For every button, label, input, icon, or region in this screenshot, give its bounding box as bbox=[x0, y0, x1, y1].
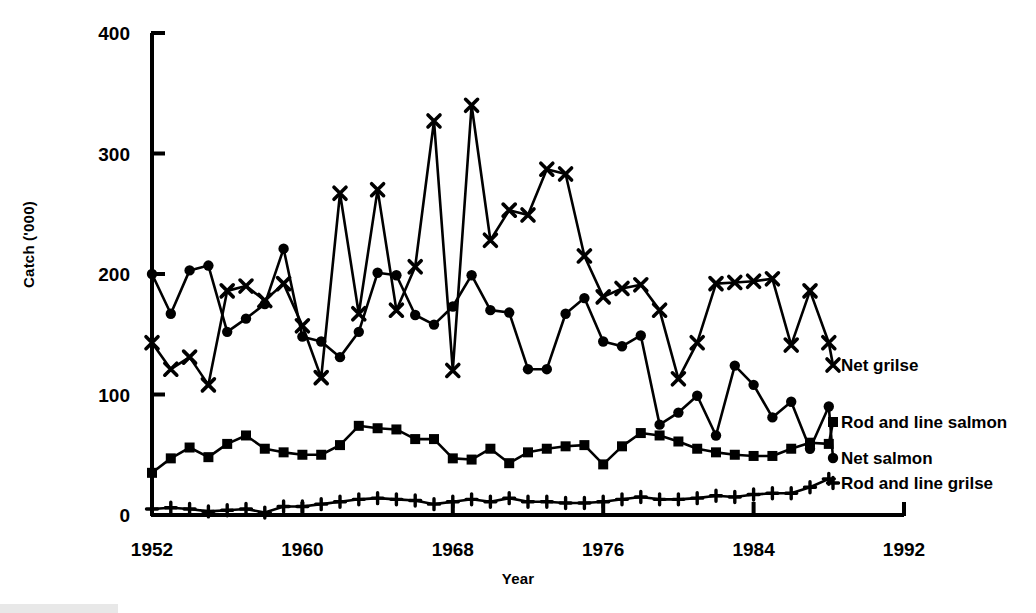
data-point-marker bbox=[673, 494, 684, 505]
data-point-marker bbox=[165, 363, 177, 375]
scan-artifact bbox=[0, 604, 118, 613]
data-point-marker bbox=[673, 436, 683, 446]
data-point-marker bbox=[523, 364, 533, 374]
series-rod-and-line-grilse bbox=[147, 473, 835, 518]
data-point-marker bbox=[429, 434, 439, 444]
data-point-marker bbox=[730, 450, 740, 460]
data-point-marker bbox=[636, 330, 646, 340]
data-point-marker bbox=[504, 493, 515, 504]
series-net-salmon bbox=[147, 243, 834, 453]
data-point-marker bbox=[429, 319, 439, 329]
data-point-marker bbox=[373, 423, 383, 433]
data-point-marker bbox=[391, 424, 401, 434]
data-point-marker bbox=[711, 447, 721, 457]
y-axis-tick-label: 300 bbox=[98, 144, 130, 165]
data-point-marker bbox=[561, 441, 571, 451]
data-point-marker bbox=[767, 451, 777, 461]
data-point-marker bbox=[241, 313, 251, 323]
data-point-marker bbox=[184, 351, 196, 363]
data-point-marker bbox=[673, 407, 683, 417]
data-point-marker bbox=[654, 419, 664, 429]
y-axis-title: Catch ('000) bbox=[20, 165, 37, 325]
legend-label-net_salmon: Net salmon bbox=[841, 449, 933, 468]
data-point-marker bbox=[467, 455, 477, 465]
data-point-marker bbox=[147, 503, 158, 514]
data-point-marker bbox=[184, 265, 194, 275]
y-axis-tick-label: 400 bbox=[98, 23, 130, 44]
series-net-grilse bbox=[146, 99, 835, 391]
data-point-marker bbox=[260, 299, 270, 309]
series-line bbox=[152, 249, 829, 449]
data-point-marker bbox=[805, 438, 815, 448]
legend-layer: Net grilseRod and line salmonNet salmonR… bbox=[827, 343, 1007, 493]
data-point-marker bbox=[448, 301, 458, 311]
data-point-marker bbox=[297, 331, 307, 341]
data-point-marker bbox=[185, 443, 195, 453]
data-point-marker bbox=[655, 430, 665, 440]
legend-label-net_grilse: Net grilse bbox=[841, 356, 918, 375]
data-point-marker bbox=[372, 493, 383, 504]
data-point-marker bbox=[748, 380, 758, 390]
y-axis-tick-label: 100 bbox=[98, 385, 130, 406]
data-point-marker bbox=[184, 503, 195, 514]
data-point-marker bbox=[579, 440, 589, 450]
data-point-marker bbox=[598, 459, 608, 469]
data-point-marker bbox=[222, 327, 232, 337]
data-point-marker bbox=[316, 336, 326, 346]
data-point-marker bbox=[222, 439, 232, 449]
data-point-marker bbox=[297, 450, 307, 460]
data-point-marker bbox=[692, 444, 702, 454]
data-point-marker bbox=[297, 501, 308, 512]
y-axis-tick-label: 0 bbox=[119, 505, 130, 526]
data-point-marker bbox=[748, 489, 759, 500]
data-point-marker bbox=[786, 397, 796, 407]
data-point-marker bbox=[598, 336, 608, 346]
data-point-marker bbox=[485, 444, 495, 454]
data-point-marker bbox=[597, 291, 609, 303]
data-point-marker bbox=[654, 494, 665, 505]
data-point-marker bbox=[278, 243, 288, 253]
data-point-marker bbox=[316, 450, 326, 460]
data-point-marker bbox=[767, 412, 777, 422]
data-point-marker bbox=[523, 447, 533, 457]
data-point-marker bbox=[335, 440, 345, 450]
data-point-marker bbox=[485, 305, 495, 315]
data-point-marker bbox=[166, 309, 176, 319]
data-point-marker bbox=[786, 444, 796, 454]
series-rod-and-line-salmon bbox=[147, 421, 834, 478]
x-axis-title: Year bbox=[458, 570, 578, 587]
data-point-marker bbox=[692, 493, 703, 504]
data-point-marker bbox=[579, 497, 590, 508]
data-point-marker bbox=[203, 452, 213, 462]
data-point-marker bbox=[560, 309, 570, 319]
data-point-marker bbox=[711, 430, 721, 440]
x-axis-tick-label: 1960 bbox=[281, 539, 323, 560]
data-point-marker bbox=[635, 491, 646, 502]
data-point-marker bbox=[448, 453, 458, 463]
data-point-marker bbox=[523, 496, 534, 507]
data-point-marker bbox=[165, 502, 176, 513]
data-point-marker bbox=[767, 488, 778, 499]
data-point-marker bbox=[504, 458, 514, 468]
data-point-marker bbox=[560, 497, 571, 508]
data-point-marker bbox=[241, 430, 251, 440]
chart-container: 0100200300400195219601968197619841992 Ne… bbox=[0, 0, 1036, 613]
data-point-marker bbox=[372, 268, 382, 278]
x-axis-tick-label: 1952 bbox=[131, 539, 173, 560]
data-point-marker bbox=[203, 260, 213, 270]
data-point-marker bbox=[542, 444, 552, 454]
data-point-marker bbox=[730, 360, 740, 370]
legend-label-rod_and_line_salmon: Rod and line salmon bbox=[841, 413, 1007, 432]
data-point-marker bbox=[241, 503, 252, 514]
data-point-marker bbox=[147, 269, 157, 279]
data-point-marker bbox=[410, 310, 420, 320]
series-layer bbox=[146, 99, 835, 518]
data-point-marker bbox=[466, 270, 476, 280]
data-point-marker bbox=[335, 352, 345, 362]
data-point-marker bbox=[617, 494, 628, 505]
data-point-marker bbox=[786, 488, 797, 499]
x-axis-tick-label: 1976 bbox=[582, 539, 624, 560]
data-point-marker bbox=[447, 496, 458, 507]
data-point-marker bbox=[804, 285, 816, 297]
data-point-marker bbox=[466, 494, 477, 505]
